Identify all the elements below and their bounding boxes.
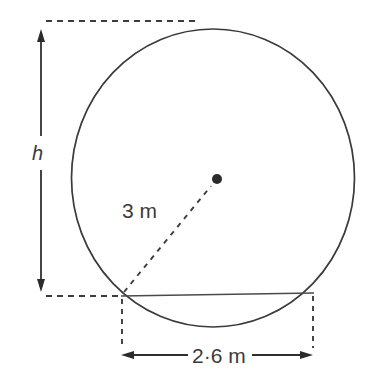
width-arrow-left-head [121,351,134,359]
circle-diagram-canvas: h 3 m 2·6 m [0,0,372,375]
width-label: 2·6 m [192,344,246,367]
geometry-diagram: h 3 m 2·6 m [0,0,372,375]
height-label: h [32,142,43,164]
centre-point-dot [212,174,222,184]
width-arrow-right-head [300,351,313,359]
radius-label: 3 m [122,199,157,222]
height-arrow-down-head [37,279,45,292]
chord-line [121,293,314,296]
height-arrow-up-head [37,29,45,42]
